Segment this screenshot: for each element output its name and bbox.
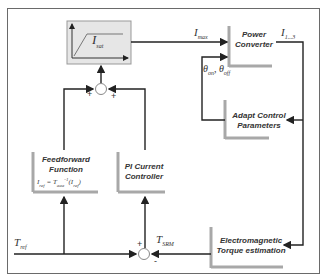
signal-i-phase: I1...3 [281,26,295,40]
pi-controller-label: PI Current Controller [120,162,168,182]
signal-tref: Tref [14,236,27,250]
signal-tsrm: TSRM [156,233,174,247]
top-sum-right-sign: + [111,91,116,101]
power-converter-label: Power Converter [232,30,276,50]
signal-imax: Imax [194,26,208,40]
adapt-control-label: Adapt Control Parameters [228,111,290,131]
bottom-sum-plus-sign: + [137,239,142,249]
signal-theta: θon, θoff [203,63,230,76]
torque-estimation-label: Electromagnetic Torque estimation [212,236,290,256]
top-sum-left-sign: + [87,89,92,99]
top-summing-junction [96,84,107,95]
feedforward-formula: Iref = Taaa-1(Iref) [37,177,81,188]
saturation-label: Isat [92,32,103,49]
bottom-sum-minus-sign: - [154,256,157,266]
bottom-summing-junction [139,249,150,260]
feedforward-label: Feedforward Function [36,155,96,175]
